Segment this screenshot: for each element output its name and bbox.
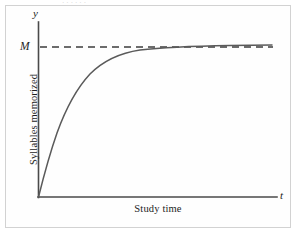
x-axis-variable-label: t	[280, 190, 283, 201]
y-axis-title: Syllables memorized	[28, 45, 39, 195]
figure-root: ······ y t M Syllables memorized Study t…	[0, 0, 298, 234]
learning-curve-path	[39, 45, 273, 197]
learning-curve-plot	[0, 0, 298, 234]
y-axis-variable-label: y	[33, 8, 38, 19]
x-axis-title: Study time	[38, 203, 278, 214]
